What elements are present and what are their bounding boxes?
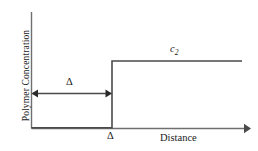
plateau-concentration-subscript: 2 — [175, 48, 179, 57]
x-axis-label: Distance — [160, 133, 197, 144]
y-axis-label: Polymer Concentration — [22, 0, 42, 151]
delta-measure-label: Δ — [66, 77, 73, 88]
polymer-concentration-step-chart: Polymer Concentration Δ Δ c2 Distance — [0, 0, 258, 151]
x-axis-tick-label-delta: Δ — [107, 131, 114, 142]
delta-measure-right-arrowhead-icon — [106, 90, 113, 98]
plateau-concentration-label: c2 — [170, 44, 178, 57]
concentration-step-curve — [32, 61, 243, 128]
x-axis-arrowhead-icon — [244, 124, 251, 133]
